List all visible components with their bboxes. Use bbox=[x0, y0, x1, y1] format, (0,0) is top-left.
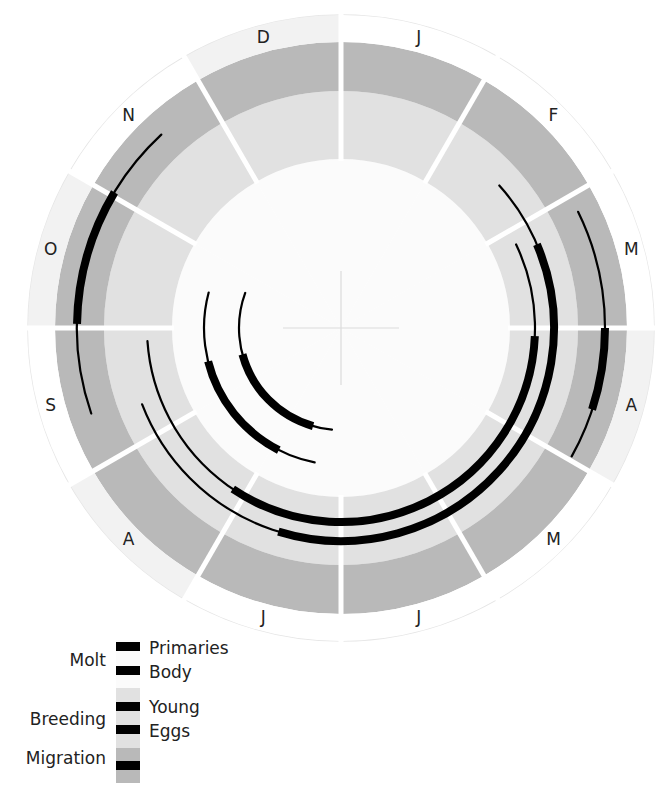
radial-phenology-chart: JFMAMJJASOND Primaries Body Young Eggs M… bbox=[0, 0, 662, 797]
legend-migration-swatch bbox=[116, 761, 140, 770]
legend-item-young: Young bbox=[148, 697, 200, 717]
month-label: F bbox=[549, 105, 559, 125]
month-label: O bbox=[44, 239, 57, 259]
legend-eggs-swatch bbox=[116, 725, 140, 734]
month-label: M bbox=[624, 239, 639, 259]
month-label: N bbox=[122, 105, 135, 125]
month-label: M bbox=[546, 529, 561, 549]
legend-item-eggs: Eggs bbox=[149, 721, 190, 741]
legend-item-body: Body bbox=[149, 662, 192, 682]
month-label: J bbox=[415, 607, 421, 627]
month-label: J bbox=[260, 607, 266, 627]
month-label: S bbox=[45, 395, 56, 415]
legend-group-migration: Migration bbox=[26, 748, 106, 768]
legend-item-primaries: Primaries bbox=[149, 638, 229, 658]
month-label: A bbox=[625, 395, 637, 415]
legend-strip bbox=[116, 640, 140, 783]
legend: Primaries Body Young Eggs Molt Breeding … bbox=[26, 638, 229, 783]
legend-primaries-swatch bbox=[116, 642, 140, 651]
month-label: D bbox=[257, 27, 270, 47]
legend-breeding-band bbox=[116, 688, 140, 748]
legend-group-molt: Molt bbox=[70, 650, 107, 670]
legend-young-swatch bbox=[116, 702, 140, 711]
legend-group-breeding: Breeding bbox=[30, 709, 106, 729]
month-label: A bbox=[123, 529, 135, 549]
legend-body-swatch bbox=[116, 666, 140, 675]
month-label: J bbox=[415, 27, 421, 47]
